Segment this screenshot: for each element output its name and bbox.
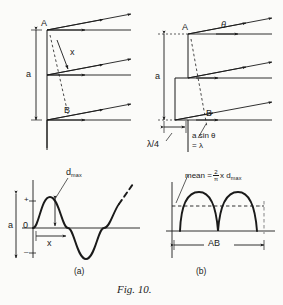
aperture-dimension-a	[31, 30, 42, 120]
label-mean-expression: mean =2πx dmax	[185, 169, 242, 183]
label-axis-minus: –	[24, 248, 28, 256]
label-axis-zero: 0	[23, 221, 28, 230]
label-path-difference: a sin θ = λ	[192, 131, 216, 151]
label-mean-times: x	[220, 171, 224, 180]
path-difference-arrow-x	[57, 40, 68, 69]
label-abscissa-x: x	[47, 239, 52, 248]
figure-caption: Fig. 10.	[117, 283, 152, 295]
rectified-curve	[180, 192, 257, 231]
label-point-a-left: A	[41, 19, 47, 28]
label-mean-denominator: π	[213, 175, 219, 182]
label-point-b-right: B	[206, 109, 212, 118]
label-amplitude-a: a	[8, 221, 13, 230]
dashed-path-ab	[191, 39, 207, 127]
label-path-x-left: x	[70, 48, 75, 57]
subcaption-panel-a: (a)	[74, 266, 84, 276]
quarter-wave-dimension	[164, 121, 186, 133]
label-angle-theta: θ	[221, 21, 226, 30]
label-point-a-right: A	[182, 23, 188, 32]
slanted-ray-midarrows	[175, 23, 246, 120]
slanted-ray-midarrows	[47, 20, 103, 121]
label-aperture-a-right: a	[155, 72, 160, 81]
label-point-b-left: B	[64, 106, 70, 115]
stepped-barrier	[175, 34, 188, 152]
label-mean-prefix: mean =	[185, 171, 212, 180]
label-mean-dmax-subscript: max	[231, 175, 242, 181]
label-aperture-a-left: a	[26, 70, 31, 79]
aperture-extension-lines	[158, 34, 188, 120]
label-path-difference-line1: a sin θ	[192, 131, 216, 140]
leader-quarter-wave	[166, 133, 172, 141]
label-mean-fraction: 2π	[213, 169, 219, 183]
figure-container: A B a x A B a θ λ/4 a sin θ = λ + 0 – a …	[0, 0, 283, 305]
panel-b-rectified-chart	[166, 175, 275, 258]
label-d-max-subscript: max	[71, 172, 82, 178]
label-d-max: dmax	[66, 168, 82, 177]
label-axis-plus: +	[24, 196, 29, 204]
subcaption-panel-b: (b)	[196, 266, 206, 276]
sine-curve-dashed-continuation	[119, 184, 133, 204]
label-span-ab: AB	[208, 239, 220, 248]
dashed-path-ab	[50, 35, 68, 114]
horizontal-ray-midarrows	[196, 34, 238, 120]
figure-vector-layer	[0, 0, 283, 305]
leader-d-max	[55, 178, 68, 199]
horizontal-rays	[188, 34, 272, 120]
label-path-difference-line2: = λ	[192, 141, 203, 150]
panel-a-sine-chart	[16, 178, 140, 259]
panel-top-left-wavefront-diagram	[31, 14, 131, 150]
label-quarter-wavelength: λ/4	[147, 140, 159, 149]
